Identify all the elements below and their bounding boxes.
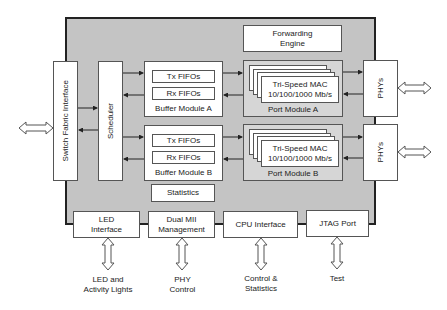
phy-control-label: PHY Control bbox=[155, 275, 210, 295]
led-external-arrow bbox=[102, 238, 114, 270]
phys-a-external-arrow bbox=[398, 82, 431, 94]
cpu-external-arrow bbox=[255, 238, 267, 270]
control-statistics-label: Control & Statistics bbox=[230, 274, 292, 294]
phys-b-external-arrow bbox=[398, 146, 431, 158]
sfi-scheduler-arrows bbox=[78, 108, 98, 130]
jtag-external-arrow bbox=[331, 237, 343, 269]
led-activity-lights-label: LED and Activity Lights bbox=[75, 275, 141, 295]
test-label: Test bbox=[317, 274, 357, 284]
sfi-external-arrow bbox=[19, 122, 53, 134]
mii-external-arrow bbox=[176, 238, 188, 270]
connector-layer bbox=[0, 0, 447, 310]
